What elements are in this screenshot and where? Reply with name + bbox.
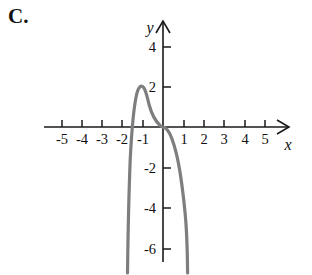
x-axis-label: x bbox=[283, 136, 291, 153]
y-tick-label-4: 4 bbox=[149, 39, 157, 55]
x-tick-label-2: 2 bbox=[200, 131, 207, 147]
x-tick-label--1: -1 bbox=[137, 131, 149, 147]
y-axis bbox=[156, 21, 170, 262]
panel-label: C. bbox=[8, 4, 28, 29]
y-tick-label-2: 2 bbox=[149, 79, 156, 95]
figure-panel: C. bbox=[0, 0, 312, 275]
x-tick-label--5: -5 bbox=[56, 131, 68, 147]
y-tick-label--6: -6 bbox=[144, 241, 156, 257]
x-tick-label--3: -3 bbox=[96, 131, 108, 147]
x-tick-label-3: 3 bbox=[220, 131, 227, 147]
x-tick-label--2: -2 bbox=[116, 131, 128, 147]
y-axis-ticks bbox=[163, 47, 171, 249]
x-tick-label-4: 4 bbox=[241, 131, 249, 147]
y-tick-label--4: -4 bbox=[144, 200, 157, 216]
x-tick-label-1: 1 bbox=[180, 131, 187, 147]
y-axis-tick-labels: 4 2 -2 -4 -6 bbox=[144, 39, 157, 257]
y-tick-label--2: -2 bbox=[144, 160, 156, 176]
x-tick-label-5: 5 bbox=[261, 131, 268, 147]
coordinate-plane-graph: -5 -4 -3 -2 -1 1 2 3 4 5 4 2 -2 -4 -6 y … bbox=[0, 0, 312, 275]
y-axis-label: y bbox=[144, 19, 154, 37]
function-curve bbox=[128, 86, 188, 273]
x-tick-label--4: -4 bbox=[76, 131, 89, 147]
